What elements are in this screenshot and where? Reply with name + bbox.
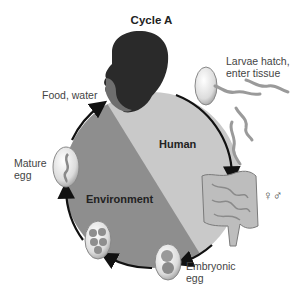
mature-label-line2: egg <box>14 169 47 181</box>
embryonic-egg-icon <box>155 244 181 280</box>
larvae-label-line2: enter tissue <box>226 67 290 79</box>
mature-egg-icon <box>53 147 79 187</box>
sexes-symbol: ♀♂ <box>263 190 283 202</box>
larvae-label-line1: Larvae hatch, <box>226 55 290 67</box>
mature-egg-label: Mature egg <box>14 157 47 181</box>
embryonic-label-line2: egg <box>186 272 236 284</box>
larvae-label: Larvae hatch, enter tissue <box>226 55 290 79</box>
diagram-title: Cycle A <box>0 14 303 26</box>
embryonic-label-line1: Embryonic <box>186 260 236 272</box>
life-cycle-diagram <box>0 0 303 300</box>
food-water-label: Food, water <box>42 89 97 101</box>
embryonic-egg-label: Embryonic egg <box>186 260 236 284</box>
mature-label-line1: Mature <box>14 157 47 169</box>
environment-region-label: Environment <box>86 193 153 205</box>
human-region-label: Human <box>159 138 196 150</box>
dividing-egg-icon <box>85 221 111 259</box>
